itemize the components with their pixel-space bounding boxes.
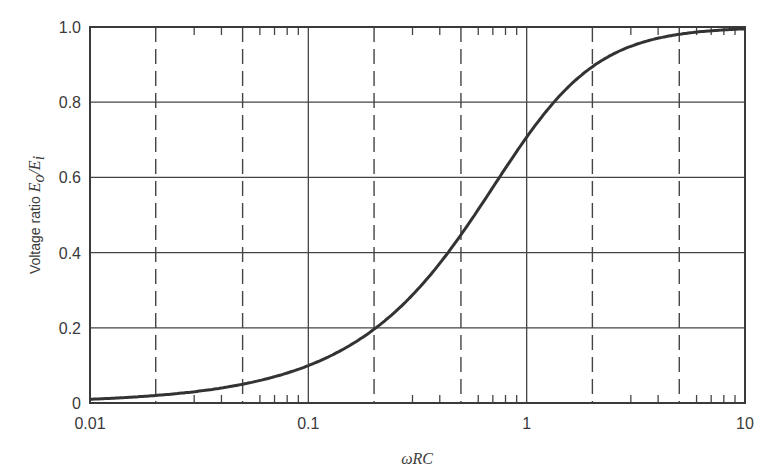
x-tick-label: 10 [736,415,754,432]
minor-ticks [194,27,735,403]
y-tick-label: 0.6 [59,169,81,186]
response-curve [90,29,745,399]
y-axis-title: Voltage ratio Eo/Ei [26,156,47,274]
svg-text:Voltage ratio Eo/Ei: Voltage ratio Eo/Ei [26,156,47,274]
y-tick-label: 0.8 [59,94,81,111]
grid-lines [90,27,745,403]
y-tick-label: 0.4 [59,245,81,262]
x-tick-label: 1 [522,415,531,432]
x-tick-labels: 0.010.1110 [74,415,754,432]
y-tick-labels: 00.20.40.60.81.0 [59,19,81,412]
y-tick-label: 0.2 [59,320,81,337]
x-tick-label: 0.01 [74,415,105,432]
y-tick-label: 0 [72,395,81,412]
y-tick-label: 1.0 [59,19,81,36]
y-axis-title-text: Voltage ratio [27,192,43,274]
plot-frame [90,27,745,403]
x-tick-label: 0.1 [297,415,319,432]
frequency-response-chart: 00.20.40.60.81.0 0.010.1110 ωRC Voltage … [0,0,776,471]
x-axis-title: ωRC [401,450,433,467]
